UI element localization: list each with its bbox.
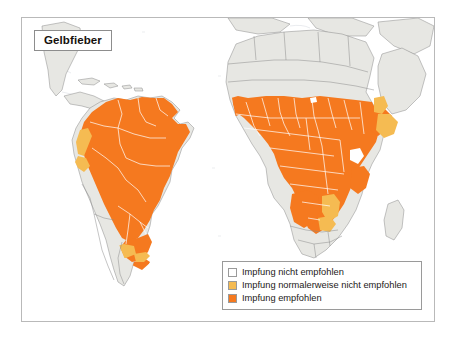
page-title: Gelbfieber xyxy=(44,34,102,46)
lake-chad xyxy=(310,97,317,103)
legend-label-not-recommended: Impfung nicht empfohlen xyxy=(242,267,344,278)
legend-swatch-not-usually-recommended xyxy=(228,281,237,290)
map-title-box: Gelbfieber xyxy=(34,30,112,51)
legend-item-not-usually-recommended: Impfung normalerweise nicht empfohlen xyxy=(228,279,415,292)
legend-swatch-not-recommended xyxy=(228,268,237,277)
yellow-fever-map-figure: .sea { fill:#ffffff; } .land { fill:#e7e… xyxy=(0,0,457,337)
map-plate: .sea { fill:#ffffff; } .land { fill:#e7e… xyxy=(21,17,435,322)
legend-label-recommended: Impfung empfohlen xyxy=(242,293,322,304)
legend-swatch-recommended xyxy=(228,294,237,303)
legend-item-not-recommended: Impfung nicht empfohlen xyxy=(228,266,415,279)
legend-item-recommended: Impfung empfohlen xyxy=(228,292,415,305)
legend-label-not-usually-recommended: Impfung normalerweise nicht empfohlen xyxy=(242,280,407,291)
legend: Impfung nicht empfohlen Impfung normaler… xyxy=(222,261,422,310)
